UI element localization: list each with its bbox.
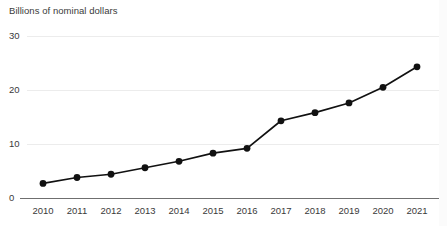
data-point-2016: [244, 145, 251, 152]
data-point-2017: [278, 117, 285, 124]
line-chart: Billions of nominal dollars 30 20 10 0 2…: [0, 0, 447, 226]
data-point-2021: [414, 63, 421, 70]
plot-area: 30 20 10 0 2010 2011 2012 2013 2014 2015…: [0, 0, 447, 226]
data-point-2013: [142, 164, 149, 171]
data-point-2010: [40, 180, 47, 187]
data-point-2015: [210, 150, 217, 157]
series-line-billions-of-nominal-dollars: [43, 67, 417, 184]
data-point-2011: [74, 174, 81, 181]
series-markers: [40, 63, 421, 186]
data-point-2020: [380, 84, 387, 91]
series-layer: [0, 0, 447, 226]
data-point-2018: [312, 109, 319, 116]
data-point-2014: [176, 158, 183, 165]
data-point-2012: [108, 171, 115, 178]
data-point-2019: [346, 100, 353, 107]
